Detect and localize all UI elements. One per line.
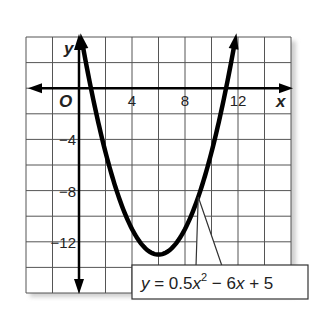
graph: 4812−4−8−12 y x O y = 0.5x2 − 6x + 5 xyxy=(0,0,322,319)
eq-x1: x xyxy=(192,274,202,293)
y-axis-label: y xyxy=(63,39,75,58)
x-tick-label: 12 xyxy=(230,92,247,109)
y-tick-label: −8 xyxy=(59,183,76,200)
x-axis-label: x xyxy=(275,92,287,111)
y-tick-label: −12 xyxy=(51,234,76,251)
eq-part1: = 0.5 xyxy=(150,274,193,293)
origin-label: O xyxy=(59,92,72,111)
equation-label: y = 0.5x2 − 6x + 5 xyxy=(140,271,273,293)
eq-x2: x xyxy=(235,274,245,293)
eq-part2: − 6 xyxy=(207,274,236,293)
y-tick-label: −4 xyxy=(59,131,76,148)
eq-part3: + 5 xyxy=(244,274,273,293)
x-tick-label: 8 xyxy=(181,92,189,109)
x-tick-label: 4 xyxy=(128,92,136,109)
